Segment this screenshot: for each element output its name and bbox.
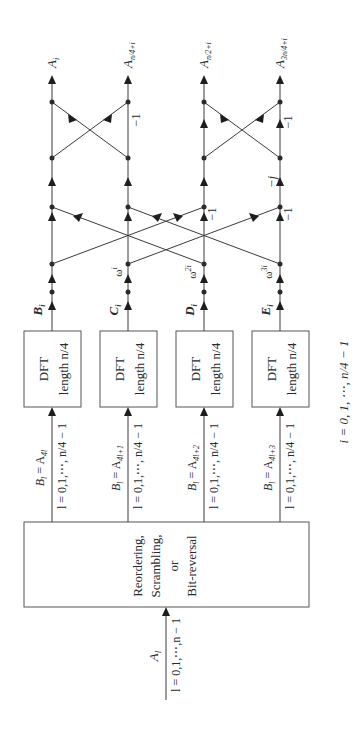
dft-box [100, 331, 157, 407]
assignment-label: Bl = A4l+1 [109, 445, 125, 491]
dft-length-label: length n/4 [208, 342, 223, 395]
twiddle-label: ωi [110, 267, 124, 276]
twiddle-stage [48, 262, 284, 311]
range-label: l = 0,1,⋯, n/4 − 1 [55, 423, 69, 509]
dft-box [252, 331, 309, 407]
arrow-up-icon [48, 407, 56, 416]
butterfly-network: −1 −1 −j [48, 75, 295, 331]
range-label: l = 0,1,⋯, n/4 − 1 [283, 423, 297, 509]
index-range-footer: i = 0, 1, ⋯, n/4 − 1 [336, 341, 351, 444]
dft-label: DFT [112, 357, 127, 382]
assignment-label: Bl = A4l+3 [261, 445, 277, 491]
reorder-line-4: Bit-reversal [184, 535, 199, 597]
output-label: Di [182, 303, 199, 316]
input-signal: Al l = 0,1,⋯,n − 1 [146, 607, 183, 700]
twiddle-label: ω2i [184, 265, 198, 278]
output-label: Ei [258, 304, 275, 317]
arrow-up-icon [200, 75, 208, 84]
input-label: Al [146, 650, 163, 662]
reorder-line-1: Reordering, [130, 535, 145, 597]
output-arrows [48, 75, 284, 84]
stage3-butterflies: −1 −1 [50, 100, 296, 159]
dft-label: DFT [188, 357, 203, 382]
stage1-minus-one-label: −1 [281, 208, 295, 221]
fft-flow-diagram: Al l = 0,1,⋯,n − 1 Reordering, Scramblin… [0, 0, 355, 732]
output-A1: An/4+i [120, 42, 137, 69]
dft-length-label: length n/4 [132, 342, 147, 395]
dft-length-label: length n/4 [56, 342, 71, 395]
dft-label: DFT [36, 357, 51, 382]
range-label: l = 0,1,⋯, n/4 − 1 [131, 423, 145, 509]
assignment-label: Bl = A4l [33, 449, 49, 486]
dft-length-label: length n/4 [284, 342, 299, 395]
twiddle-label: ω3i [260, 265, 274, 278]
output-A0: Ai [44, 58, 61, 69]
reorder-block: Reordering, Scrambling, or Bit-reversal [24, 522, 309, 607]
arrow-up-icon [48, 75, 56, 84]
reorder-line-2: Scrambling, [148, 534, 163, 597]
branch-0: Bl = A4l l = 0,1,⋯, n/4 − 1 DFT length n… [24, 304, 81, 522]
arrow-up-icon [276, 407, 284, 416]
arrow-up-icon [162, 607, 170, 616]
arrow-up-icon [124, 75, 132, 84]
output-label: Ci [106, 304, 123, 316]
output-label: Bi [30, 304, 47, 317]
arrow-up-icon [276, 75, 284, 84]
dft-label: DFT [264, 357, 279, 382]
arrow-up-icon [200, 407, 208, 416]
outputs: Ai An/4+i An/2+i A3n/4+i [44, 38, 289, 69]
stage3-minus-one-label: −1 [281, 116, 295, 129]
stage1-butterflies: −1 −1 [48, 205, 295, 265]
minus-j-label: −j [264, 175, 279, 188]
arrow-up-icon [124, 407, 132, 416]
dft-box [24, 331, 81, 407]
reorder-line-3: or [166, 560, 181, 572]
stage2-multipliers: −j [48, 156, 284, 189]
stage1-minus-one-label: −1 [205, 208, 219, 221]
dft-box [176, 331, 233, 407]
input-range: l = 0,1,⋯,n − 1 [169, 618, 183, 692]
output-A2: An/2+i [196, 42, 213, 69]
output-A3: A3n/4+i [272, 38, 289, 69]
diagram-root: Al l = 0,1,⋯,n − 1 Reordering, Scramblin… [24, 38, 351, 700]
range-label: l = 0,1,⋯, n/4 − 1 [207, 423, 221, 509]
assignment-label: Bl = A4l+2 [185, 445, 201, 491]
stage3-minus-one-label: −1 [129, 114, 143, 127]
